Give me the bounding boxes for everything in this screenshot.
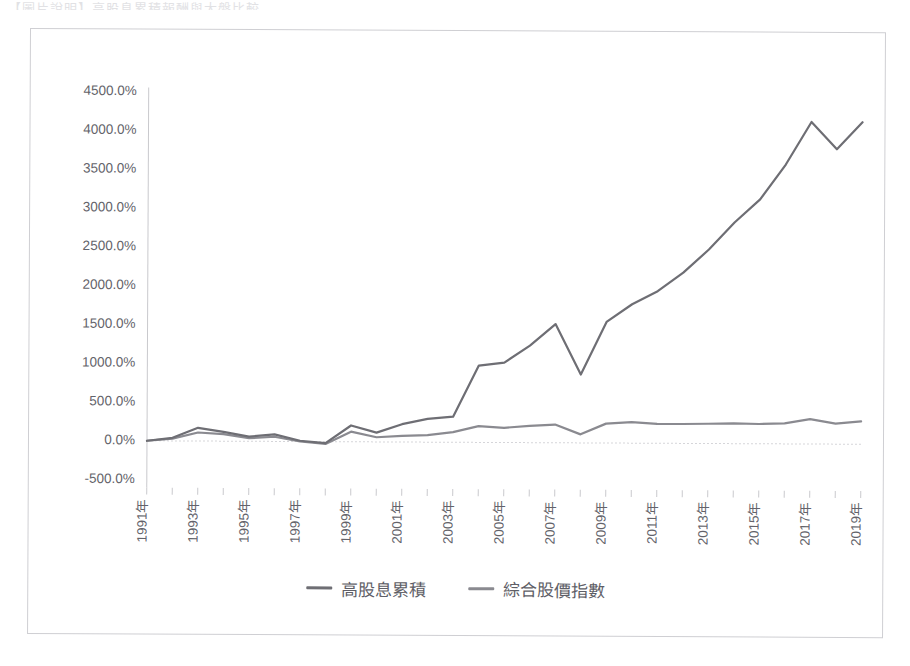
x-axis-label: 1993年 <box>185 500 200 543</box>
y-axis-label: 0.0% <box>104 432 135 447</box>
line-swatch-icon <box>468 587 494 590</box>
legend-label: 高股息累積 <box>341 576 426 601</box>
legend-item-0[interactable]: 高股息累積 <box>306 575 426 601</box>
zero-baseline <box>147 441 861 444</box>
chart-svg: 4500.0%4000.0%3500.0%3000.0%2500.0%2000.… <box>28 29 885 637</box>
x-axis-label: 2011年 <box>644 502 659 544</box>
y-axis-line <box>147 88 149 488</box>
legend-label: 綜合股價指數 <box>503 576 605 601</box>
scan-header-text: 【圖片說明】高股息累積報酬與大盤比較 <box>8 0 428 10</box>
legend-item-1[interactable]: 綜合股價指數 <box>468 576 605 602</box>
x-axis-label: 1997年 <box>287 500 302 543</box>
x-axis-label: 1991年 <box>134 500 149 543</box>
line-swatch-icon <box>306 586 332 589</box>
y-axis-label: 500.0% <box>89 393 135 408</box>
x-axis-label: 2017年 <box>797 503 812 546</box>
y-axis-label: 3000.0% <box>83 199 136 214</box>
x-axis-label: 2009年 <box>593 502 608 545</box>
series-line <box>147 119 863 446</box>
x-axis-label: 1999年 <box>338 501 353 544</box>
x-axis-label: 2005年 <box>491 501 506 544</box>
y-axis-label: 2000.0% <box>82 277 135 292</box>
x-axis-label: 2001年 <box>389 501 404 544</box>
chart-legend: 高股息累積 綜合股價指數 <box>28 574 882 603</box>
line-chart: 4500.0%4000.0%3500.0%3000.0%2500.0%2000.… <box>28 29 885 637</box>
y-axis-label: 1000.0% <box>82 354 135 369</box>
x-axis-label: 1995年 <box>236 500 251 543</box>
y-axis-label: 2500.0% <box>83 238 136 253</box>
y-axis-label: 4000.0% <box>83 122 136 137</box>
y-axis-label: 1500.0% <box>82 316 135 331</box>
y-axis-label: 4500.0% <box>83 83 136 98</box>
x-axis-label: 2015年 <box>746 503 761 546</box>
series-line <box>147 416 861 447</box>
x-axis-label: 2007年 <box>542 502 557 545</box>
x-axis-label: 2003年 <box>440 501 455 544</box>
x-axis-label: 2019年 <box>848 503 863 546</box>
figure-frame: 4500.0%4000.0%3500.0%3000.0%2500.0%2000.… <box>27 28 886 638</box>
y-axis-label: -500.0% <box>84 471 134 486</box>
x-axis-label: 2013年 <box>695 502 710 545</box>
y-axis-label: 3500.0% <box>83 160 136 175</box>
